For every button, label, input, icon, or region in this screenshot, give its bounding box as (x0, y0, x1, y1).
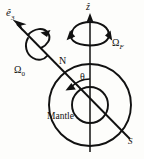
spin-rate-label: Ω0 (14, 65, 25, 78)
precession-rate-label: ΩF (112, 38, 124, 51)
z-axis-label: ẑ (86, 2, 90, 12)
physics-diagram-figure: ê3 ẑ ΩF Ω0 N S θ Mantle (0, 0, 144, 159)
north-pole-label: N (59, 56, 66, 66)
precession-axis-group (86, 13, 94, 152)
spin-axis-label: ê3 (6, 8, 14, 22)
precession-rate-subscript: F (119, 43, 123, 51)
diagram-canvas (0, 0, 144, 159)
arrow-upleft-icon (13, 20, 27, 32)
spin-axis-vector-symbol: ê (6, 6, 11, 18)
mantle-label: Mantle (47, 112, 74, 122)
spin-axis-vector-subscript: 3 (11, 14, 15, 22)
tilt-angle-label: θ (80, 72, 85, 82)
spin-rate-subscript: 0 (21, 70, 25, 78)
south-pole-label: S (128, 137, 133, 146)
